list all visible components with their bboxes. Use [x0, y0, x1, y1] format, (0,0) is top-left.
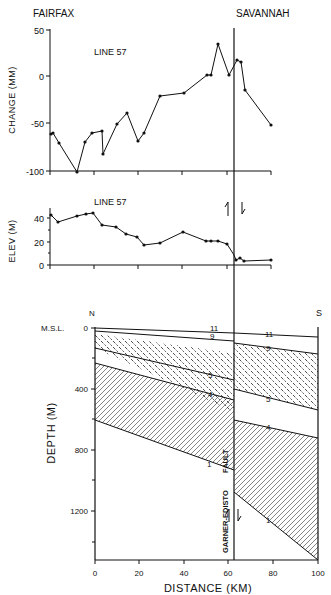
distance-tick-40: 40 [180, 569, 189, 578]
distance-tick-60: 60 [224, 569, 233, 578]
change-series-markers [49, 42, 272, 173]
depth-tick-400: 400 [75, 385, 89, 394]
elev-axis-label: ELEV (M) [7, 219, 17, 262]
horizon-9-north-label: 9 [210, 332, 215, 341]
station-fairfax: FAIRFAX [33, 8, 74, 19]
distance-tick-100: 100 [311, 569, 325, 578]
change-tick-neg50: -50 [31, 119, 44, 129]
elevation-chart: 40 20 0 ELEV (M) LINE 57 [7, 197, 273, 271]
cross-section: N S M.S.L. 0 400 800 1200 DEPTH (M) 0 20… [41, 308, 325, 594]
horizon-1-north-label: 1 [207, 460, 212, 469]
change-chart: 50 0 -50 -100 CHANGE (MM) LINE 57 [7, 26, 273, 177]
depth-axis-label: DEPTH (M) [45, 402, 57, 463]
change-tick-0: 0 [39, 72, 44, 82]
horizon-4-north-label: 4 [208, 390, 213, 399]
horizon-11-south-label: 11 [265, 330, 274, 339]
depth-tick-1200: 1200 [70, 507, 88, 516]
elev-tick-0: 0 [39, 261, 44, 271]
elev-series-line [51, 213, 271, 261]
elev-tick-20: 20 [34, 238, 44, 248]
station-savannah: SAVANNAH [236, 8, 290, 19]
change-tick-neg100: -100 [26, 167, 44, 177]
north-label: N [89, 309, 95, 318]
distance-tick-80: 80 [269, 569, 278, 578]
fault-arrows-upper [225, 202, 245, 216]
change-series-line [51, 44, 271, 172]
layer-4-1-south [234, 420, 318, 560]
depth-tick-800: 800 [75, 446, 89, 455]
horizon-5-north-label: 5 [208, 371, 213, 380]
horizon-1-south-label: 1 [266, 516, 271, 525]
elev-tick-40: 40 [34, 214, 44, 224]
distance-axis-label: DISTANCE (KM) [164, 582, 252, 594]
elev-series-markers [49, 211, 272, 262]
south-label: S [316, 308, 322, 318]
change-chart-title: LINE 57 [94, 47, 127, 57]
change-tick-50: 50 [34, 26, 44, 36]
distance-tick-20: 20 [135, 569, 144, 578]
distance-tick-0: 0 [93, 569, 98, 578]
horizon-4-south-label: 4 [266, 423, 271, 432]
figure: FAIRFAX SAVANNAH 50 0 -50 -100 CHANGE (M… [0, 0, 331, 595]
fault-word-label: FAULT [221, 449, 230, 473]
change-axis-label: CHANGE (MM) [7, 66, 17, 134]
msl-label: M.S.L. [41, 324, 64, 333]
elev-chart-title: LINE 57 [94, 197, 127, 207]
horizon-5-south-label: 5 [266, 395, 271, 404]
horizon-9-south-label: 9 [266, 344, 271, 353]
depth-tick-0: 0 [84, 324, 89, 333]
